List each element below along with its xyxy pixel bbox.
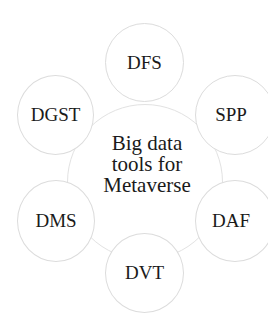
- node-label: SPP: [215, 104, 247, 126]
- center-title-line: Metaverse: [82, 175, 212, 196]
- node-dvt: DVT: [105, 233, 184, 313]
- node-label: DFS: [127, 52, 162, 74]
- node-label: DGST: [31, 104, 81, 126]
- center-title-line: Big data: [82, 133, 212, 154]
- node-label: DMS: [35, 210, 76, 232]
- node-label: DVT: [125, 262, 164, 284]
- node-dfs: DFS: [105, 23, 184, 102]
- center-title-line: tools for: [82, 154, 212, 175]
- node-label: DAF: [212, 210, 250, 232]
- diagram-canvas: DFS SPP DAF DVT DMS DGST Big data tools …: [0, 0, 268, 326]
- center-title: Big data tools for Metaverse: [82, 133, 212, 196]
